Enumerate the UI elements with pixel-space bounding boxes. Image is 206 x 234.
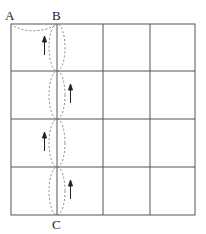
arrow-up-icon [43, 36, 47, 42]
arrow-up-icon [43, 132, 47, 138]
path-a-to-b [11, 24, 57, 31]
label-b: B [52, 9, 61, 22]
label-a: A [5, 9, 14, 22]
arrow-up-icon [69, 180, 73, 186]
arrow-up-icon [69, 84, 73, 90]
grid-diagram [0, 0, 206, 234]
label-c: C [52, 218, 61, 231]
grid-lines [11, 24, 195, 215]
